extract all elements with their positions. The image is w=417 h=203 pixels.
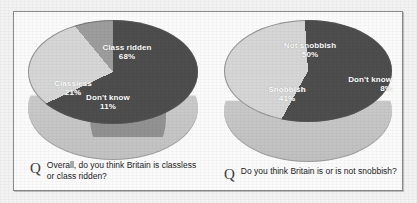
caption-text: Do you think Britain is or is not snobbi… (241, 166, 397, 177)
pie-chart-snobbish: Not snobbish 50% Snobbish 41% Don't know… (224, 20, 392, 148)
slice-label-snobbish: Snobbish 41% (256, 86, 318, 104)
slice-percent: 68% (88, 53, 166, 62)
slice-percent: 41% (256, 95, 318, 104)
slice-name: Don't know (348, 75, 392, 84)
slice-label-dont-know: Don't know 8% (330, 76, 392, 94)
slice-label-class-ridden: Class ridden 68% (88, 44, 166, 62)
figure-frame: Class ridden 68% Classless 21% Don't kno… (13, 11, 403, 191)
slice-name: Snobbish (268, 85, 305, 94)
slice-name: Class ridden (102, 43, 151, 52)
slice-name: Not snobbish (284, 41, 336, 50)
pie-top-surface (224, 20, 392, 122)
chart-block-class: Class ridden 68% Classless 21% Don't kno… (14, 12, 210, 192)
slice-percent: 50% (270, 51, 350, 60)
slice-label-not-snobbish: Not snobbish 50% (270, 42, 350, 60)
caption-text: Overall, do you think Britain is classle… (47, 160, 206, 182)
question-mark-icon: Q (224, 167, 235, 182)
pie-chart-class: Class ridden 68% Classless 21% Don't kno… (28, 20, 198, 148)
slice-label-dont-know: Don't know 11% (86, 94, 130, 112)
scanned-page: Class ridden 68% Classless 21% Don't kno… (0, 0, 417, 203)
caption-class-question: Q Overall, do you think Britain is class… (30, 160, 206, 182)
chart-block-snobbish: Not snobbish 50% Snobbish 41% Don't know… (210, 12, 402, 192)
slice-percent: 11% (86, 103, 130, 112)
slice-name: Classless (54, 79, 92, 88)
question-mark-icon: Q (30, 161, 41, 176)
slice-name: Don't know (86, 93, 130, 102)
slice-percent: 8% (330, 85, 392, 94)
caption-snobbish-question: Q Do you think Britain is or is not snob… (224, 166, 400, 182)
